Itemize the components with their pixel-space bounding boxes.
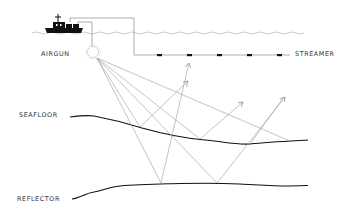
seismic-rays (97, 58, 290, 183)
seafloor-label: SEAFLOOR (19, 112, 58, 118)
receiver-icon (157, 54, 162, 56)
streamer-label: STREAMER (295, 51, 335, 57)
airgun-label: AIRGUN (41, 51, 70, 57)
reflector-line (72, 183, 308, 199)
airgun-icon (86, 45, 100, 59)
streamer-cable (70, 18, 290, 55)
seismic-diagram (0, 0, 348, 217)
receiver-icon (217, 54, 222, 56)
receiver-icon (187, 54, 192, 56)
reflector-label: REFLECTOR (17, 196, 60, 202)
receiver-icon (247, 54, 252, 56)
receiver-icon (277, 54, 282, 56)
ship-icon (45, 14, 83, 33)
seafloor-line (70, 116, 308, 145)
